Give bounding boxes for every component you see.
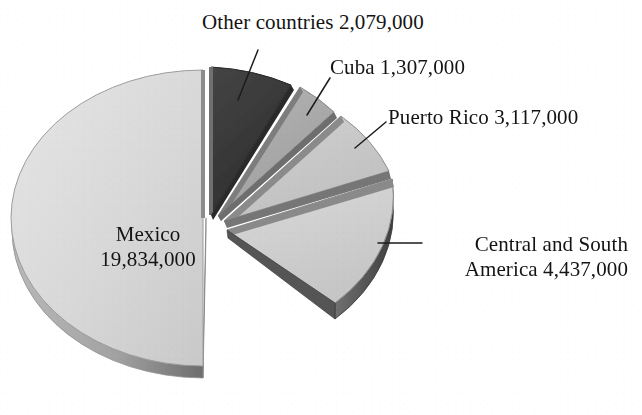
slice-label-cuba: Cuba 1,307,000: [330, 55, 465, 80]
slice-label-mexico-value: 19,834,000: [60, 247, 236, 272]
slice-label-central-south-america: Central and South America 4,437,000: [392, 232, 628, 282]
pie-chart-svg: [0, 0, 642, 415]
slice-label-csa-line2: America 4,437,000: [392, 257, 628, 282]
slice-label-mexico: Mexico 19,834,000: [60, 222, 236, 272]
slice-label-puerto-rico: Puerto Rico 3,117,000: [388, 105, 578, 130]
slice-label-csa-line1: Central and South: [392, 232, 628, 257]
pie-chart-figure: Other countries 2,079,000 Cuba 1,307,000…: [0, 0, 642, 415]
slice-label-mexico-name: Mexico: [60, 222, 236, 247]
slice-label-other-countries: Other countries 2,079,000: [202, 10, 424, 35]
